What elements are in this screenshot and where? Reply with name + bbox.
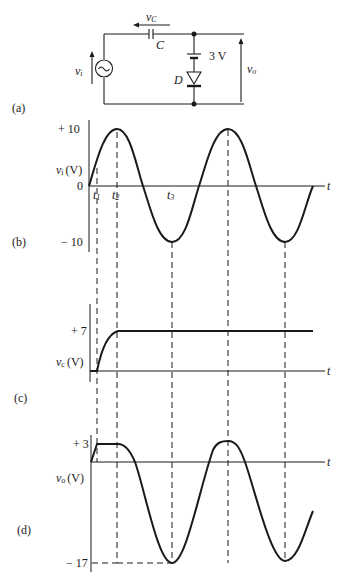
circuit-schematic: vC C 3 V D vi vo (a)	[12, 10, 256, 115]
t3-label: t3	[167, 188, 174, 202]
battery-icon	[187, 54, 201, 58]
capacitor-label: C	[156, 38, 165, 52]
chart-vi: + 10 0 − 10 vi(V) t t1 t2 t3 (b)	[12, 120, 331, 252]
vo-ylabel: vo(V)	[56, 471, 84, 485]
diode-label: D	[173, 73, 183, 87]
vc-ylabel: vc(V)	[56, 355, 84, 369]
vc-xlabel: t	[327, 364, 331, 378]
vi-ylabel: vi(V)	[56, 163, 82, 177]
panel-label-d: (d)	[17, 523, 31, 537]
clamper-figure: vC C 3 V D vi vo (a) + 10 0 − 10 vi(V) t…	[0, 0, 345, 579]
vo-label: vo	[247, 62, 256, 76]
vi-xlabel: t	[327, 179, 331, 193]
diode-icon	[187, 72, 201, 86]
vo-tick-plus3: + 3	[73, 437, 89, 451]
vo-xlabel: t	[327, 455, 331, 469]
chart-vo: + 3 − 17 vo(V) t (d)	[17, 435, 331, 572]
vo-curve	[91, 441, 313, 563]
battery-label: 3 V	[209, 49, 227, 63]
t2-label: t2	[112, 188, 119, 202]
panel-label-a: (a)	[12, 101, 25, 115]
vi-arrow-icon	[90, 51, 95, 84]
vo-arrow-icon	[239, 38, 244, 102]
vi-tick-minus10: − 10	[61, 235, 83, 249]
vi-tick-zero: 0	[77, 179, 83, 193]
vc-tick-plus7: + 7	[71, 324, 87, 338]
panel-label-b: (b)	[12, 235, 26, 249]
vi-tick-plus10: + 10	[58, 122, 80, 136]
vc-curve	[90, 331, 313, 371]
vo-tick-minus17: − 17	[66, 556, 88, 570]
panel-label-c: (c)	[14, 391, 27, 405]
vi-label: vi	[75, 64, 83, 78]
vc-label: vC	[146, 10, 157, 24]
